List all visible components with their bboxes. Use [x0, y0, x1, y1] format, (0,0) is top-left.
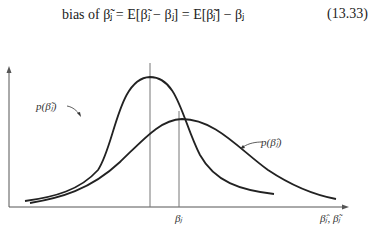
label-true-beta: βⱼ [175, 212, 182, 225]
label-p-beta-tilde: p(β̃ⱼ) [36, 100, 56, 113]
leader-arrow-icon [77, 112, 81, 117]
x-axis-arrow-icon [342, 205, 349, 210]
sampling-distributions-diagram [0, 0, 380, 232]
x-axis-label: β̂ⱼ, β̃ⱼ [320, 212, 340, 225]
label-p-beta-hat: p(β̂ⱼ) [261, 136, 281, 149]
curve-hat [30, 119, 336, 203]
y-axis-arrow-icon [7, 66, 12, 73]
